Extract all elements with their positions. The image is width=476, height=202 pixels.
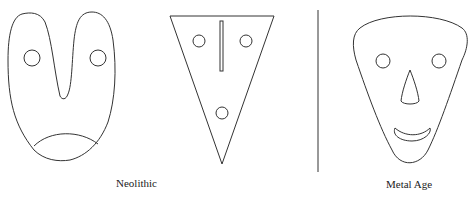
right-eye-icon <box>432 54 446 68</box>
left-eye-icon <box>24 50 40 66</box>
metal-age-label: Metal Age <box>386 178 432 190</box>
figure-canvas <box>0 0 476 202</box>
neolithic-label: Neolithic <box>116 177 157 189</box>
nose-icon <box>401 70 419 104</box>
u-shaped-mask <box>8 12 115 161</box>
rounded-triangle-face <box>353 16 467 163</box>
triangular-mask <box>170 16 274 164</box>
mouth-icon <box>216 107 228 119</box>
right-eye-icon <box>90 50 106 66</box>
left-eye-icon <box>376 54 390 68</box>
right-eye-icon <box>240 35 252 47</box>
nose-bar-icon <box>220 21 223 71</box>
smile-icon <box>394 128 430 141</box>
left-eye-icon <box>193 35 205 47</box>
